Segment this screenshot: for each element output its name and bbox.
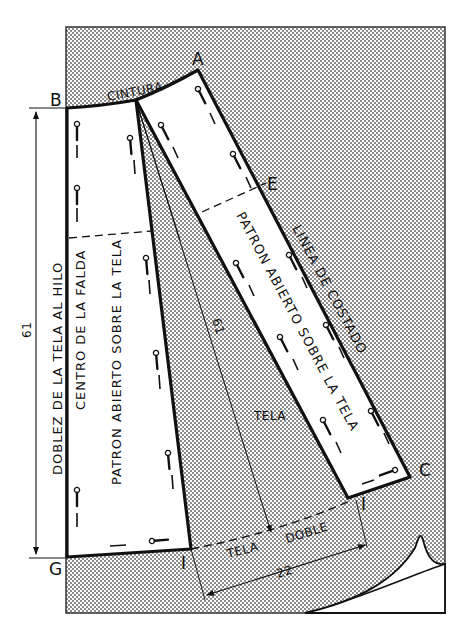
point-i-left-label: I xyxy=(181,553,186,573)
vertical-dimension-label: 61 xyxy=(20,322,34,338)
point-g-label: G xyxy=(49,559,62,579)
point-e-label: E xyxy=(267,174,278,194)
fold-label: DOBLEZ DE LA TELA AL HILO xyxy=(50,262,65,475)
left-piece-label: PATRON ABIERTO SOBRE LA TELA xyxy=(109,239,124,485)
fabric-label: TELA xyxy=(253,409,286,423)
point-i-right-label: I xyxy=(361,494,366,514)
point-b-label: B xyxy=(50,90,62,110)
point-c-label: C xyxy=(419,460,431,480)
pattern-diagram: A B E C G I I CINTURA DOBLEZ DE LA TELA … xyxy=(0,0,467,641)
center-label: CENTRO DE LA FALDA xyxy=(73,250,88,410)
point-a-label: A xyxy=(192,49,204,69)
